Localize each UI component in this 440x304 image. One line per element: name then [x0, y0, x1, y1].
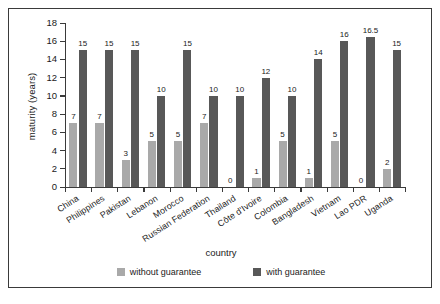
bar-value-label-with-3: 10 — [157, 86, 166, 94]
x-tick-mark-9 — [300, 187, 301, 192]
bar-without-guarantee-5 — [200, 123, 208, 187]
bar-without-guarantee-12 — [383, 169, 391, 187]
bar-value-label-with-2: 15 — [131, 40, 140, 48]
bar-value-label-with-10: 16 — [340, 31, 349, 39]
plot-area: 024681012141618 715715315510515710010112… — [65, 23, 405, 187]
x-axis-line — [65, 187, 405, 188]
y-tick-label-4: 8 — [31, 109, 57, 119]
y-tick-mark-3 — [60, 132, 65, 133]
x-tick-mark-6 — [222, 187, 223, 192]
x-tick-mark-1 — [91, 187, 92, 192]
chart-legend: without guaranteewith guarantee — [9, 267, 433, 277]
bar-value-label-with-7: 12 — [261, 68, 270, 76]
y-tick-label-3: 6 — [31, 128, 57, 138]
x-tick-mark-end — [405, 187, 406, 192]
bar-without-guarantee-0 — [69, 123, 77, 187]
bar-value-label-without-4: 5 — [176, 131, 180, 139]
bar-with-guarantee-1 — [105, 50, 113, 187]
bar-value-label-with-12: 15 — [392, 40, 401, 48]
bar-without-guarantee-9 — [305, 178, 313, 187]
bar-with-guarantee-9 — [314, 59, 322, 187]
y-tick-mark-1 — [60, 168, 65, 169]
legend-label-1: with guarantee — [266, 267, 325, 277]
y-tick-label-2: 4 — [31, 146, 57, 156]
y-tick-mark-6 — [60, 77, 65, 78]
y-tick-label-9: 18 — [31, 18, 57, 28]
bar-value-label-with-4: 15 — [183, 40, 192, 48]
x-tick-mark-7 — [248, 187, 249, 192]
bar-value-label-without-9: 1 — [307, 168, 311, 176]
legend-item-1: with guarantee — [253, 267, 325, 277]
bar-value-label-without-5: 7 — [202, 113, 206, 121]
bar-without-guarantee-2 — [122, 160, 130, 187]
bar-with-guarantee-11 — [366, 37, 374, 187]
y-axis-line — [65, 23, 66, 187]
bar-value-label-with-1: 15 — [104, 40, 113, 48]
y-tick-label-5: 10 — [31, 91, 57, 101]
y-tick-label-1: 2 — [31, 164, 57, 174]
bar-with-guarantee-7 — [262, 78, 270, 187]
bar-without-guarantee-1 — [95, 123, 103, 187]
y-tick-mark-7 — [60, 59, 65, 60]
x-tick-mark-0 — [65, 187, 66, 192]
x-tick-mark-10 — [327, 187, 328, 192]
y-tick-mark-8 — [60, 41, 65, 42]
bar-with-guarantee-4 — [183, 50, 191, 187]
x-category-label-12: Uganda — [363, 193, 395, 219]
y-tick-mark-4 — [60, 114, 65, 115]
bar-value-label-without-0: 7 — [71, 113, 75, 121]
bar-with-guarantee-6 — [236, 96, 244, 187]
bar-value-label-without-6: 0 — [228, 177, 232, 185]
bar-without-guarantee-3 — [148, 141, 156, 187]
bar-value-label-without-3: 5 — [150, 131, 154, 139]
bar-without-guarantee-7 — [252, 178, 260, 187]
x-tick-mark-2 — [117, 187, 118, 192]
x-tick-mark-12 — [379, 187, 380, 192]
bar-value-label-without-12: 2 — [385, 159, 389, 167]
bar-value-label-with-0: 15 — [78, 40, 87, 48]
bar-value-label-with-5: 10 — [209, 86, 218, 94]
x-tick-mark-4 — [170, 187, 171, 192]
bar-with-guarantee-2 — [131, 50, 139, 187]
x-tick-mark-3 — [143, 187, 144, 192]
bar-value-label-without-7: 1 — [254, 168, 258, 176]
bar-without-guarantee-10 — [331, 141, 339, 187]
bar-value-label-without-2: 3 — [123, 150, 127, 158]
bar-with-guarantee-10 — [340, 41, 348, 187]
bar-with-guarantee-8 — [288, 96, 296, 187]
y-tick-label-8: 16 — [31, 36, 57, 46]
x-tick-mark-5 — [196, 187, 197, 192]
bar-value-label-without-11: 0 — [359, 177, 363, 185]
bar-with-guarantee-5 — [209, 96, 217, 187]
x-axis-title: country — [9, 247, 433, 258]
bar-value-label-with-8: 10 — [288, 86, 297, 94]
x-tick-mark-11 — [353, 187, 354, 192]
y-tick-mark-9 — [60, 23, 65, 24]
chart-figure-frame: maturity (years) 024681012141618 7157153… — [8, 8, 432, 288]
bar-with-guarantee-3 — [157, 96, 165, 187]
legend-swatch-0 — [117, 268, 125, 276]
bar-value-label-without-1: 7 — [97, 113, 101, 121]
legend-label-0: without guarantee — [130, 267, 202, 277]
y-tick-mark-2 — [60, 150, 65, 151]
bar-value-label-without-10: 5 — [333, 131, 337, 139]
y-tick-label-0: 0 — [31, 182, 57, 192]
bar-with-guarantee-0 — [79, 50, 87, 187]
y-tick-label-7: 14 — [31, 55, 57, 65]
bar-value-label-with-6: 10 — [235, 86, 244, 94]
legend-item-0: without guarantee — [117, 267, 202, 277]
y-tick-label-6: 12 — [31, 73, 57, 83]
legend-swatch-1 — [253, 268, 261, 276]
y-tick-mark-5 — [60, 95, 65, 96]
bar-value-label-with-11: 16.5 — [363, 27, 379, 35]
bar-value-label-without-8: 5 — [280, 131, 284, 139]
bar-without-guarantee-8 — [279, 141, 287, 187]
bar-with-guarantee-12 — [393, 50, 401, 187]
bar-without-guarantee-4 — [174, 141, 182, 187]
x-tick-mark-8 — [274, 187, 275, 192]
bar-value-label-with-9: 14 — [314, 49, 323, 57]
